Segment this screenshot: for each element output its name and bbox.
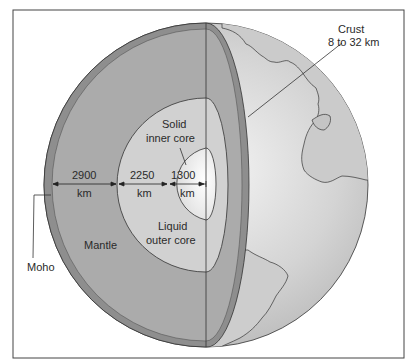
outer-core-dimension-unit: km (137, 187, 152, 200)
crust-title-label: Crust (338, 23, 364, 36)
inner-core-label-line2: inner core (146, 132, 195, 145)
inner-core-dimension-unit: km (180, 187, 195, 200)
inner-core-label-line1: Solid (162, 118, 186, 131)
inner-core-dimension-value: 1300 (171, 169, 195, 182)
diagram-graphic (0, 0, 416, 363)
crust-range-label: 8 to 32 km (328, 36, 379, 49)
mantle-dimension-unit: km (77, 187, 92, 200)
earth-cutaway-diagram: Crust 8 to 32 km Solid inner core 2900 k… (0, 0, 416, 363)
mantle-label: Mantle (84, 239, 117, 252)
mantle-dimension-value: 2900 (72, 169, 96, 182)
outer-core-label-line1: Liquid (158, 220, 187, 233)
outer-core-label-line2: outer core (146, 234, 196, 247)
moho-label: Moho (27, 261, 55, 274)
outer-core-dimension-value: 2250 (130, 169, 154, 182)
